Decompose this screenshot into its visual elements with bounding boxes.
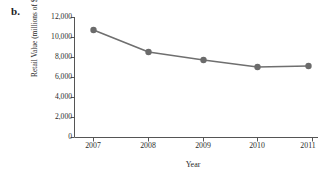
figure-panel-b: b. Retail Value (millions of $) Year 12,… <box>0 0 326 183</box>
x-tick-label: 2009 <box>180 141 226 150</box>
x-tick-label: 2008 <box>125 141 171 150</box>
x-tick-label: 2007 <box>70 141 116 150</box>
x-tick-label: 2011 <box>285 141 326 150</box>
x-tick-label: 2010 <box>234 141 280 150</box>
x-axis-tick-labels: 2007 2008 2009 2010 2011 <box>0 0 326 183</box>
